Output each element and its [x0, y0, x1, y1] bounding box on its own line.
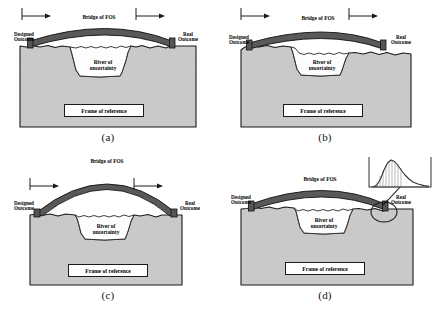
bridge-deck-c: [36, 184, 176, 216]
frame-of-reference-box-d: Frame of reference: [285, 262, 365, 275]
frame-of-reference-box-c: Frame of reference: [68, 264, 148, 277]
frame-of-reference-box-a: Frame of reference: [64, 104, 144, 117]
river-label-b: River of uncertainty: [293, 60, 351, 71]
datum-arrow-left-a: [22, 8, 51, 20]
designed-outcome-label-c: Designed Outcome: [2, 201, 46, 212]
bridge-label-a: Bridge of FOS: [58, 15, 140, 21]
real-outcome-label-d: Real Outcome: [379, 195, 423, 206]
panel-b: Bridge of FOS Designed Outcome Real Outc…: [217, 0, 433, 156]
frame-of-reference-box-b: Frame of reference: [283, 104, 363, 117]
real-outcome-label-a: Real Outcome: [166, 32, 210, 43]
panel-caption-c: (c): [0, 289, 216, 301]
datum-arrow-right-c: [134, 178, 163, 190]
designed-outcome-label-d: Designed Outcome: [219, 195, 263, 206]
real-outcome-label-c: Real Outcome: [168, 201, 212, 212]
datum-arrow-left-b: [241, 8, 270, 20]
real-outcome-label-b: Real Outcome: [379, 35, 423, 46]
bridge-deck-a: [30, 29, 172, 48]
bridge-label-c: Bridge of FOS: [66, 159, 148, 165]
panel-d: Bridge of FOS Designed Outcome Real Outc…: [217, 157, 433, 313]
bridge-label-d: Bridge of FOS: [279, 177, 361, 183]
river-label-a: River of uncertainty: [74, 60, 132, 71]
figure-bridge-of-fos: Bridge of FOS Designed Outcome Real Outc…: [0, 0, 433, 313]
panel-c: Bridge of FOS Designed Outcome Real Outc…: [0, 157, 216, 313]
panel-a: Bridge of FOS Designed Outcome Real Outc…: [0, 0, 216, 156]
panel-caption-b: (b): [217, 131, 433, 143]
bridge-label-b: Bridge of FOS: [277, 16, 359, 22]
river-label-c: River of uncertainty: [77, 224, 135, 235]
datum-arrow-right-a: [136, 8, 165, 20]
river-label-d: River of uncertainty: [295, 218, 353, 229]
inset-distribution-chart-d: [369, 157, 431, 187]
datum-arrow-left-c: [30, 178, 59, 190]
designed-outcome-label-b: Designed Outcome: [217, 35, 261, 46]
panel-caption-a: (a): [0, 131, 216, 143]
panel-caption-d: (d): [217, 289, 433, 301]
designed-outcome-label-a: Designed Outcome: [2, 32, 46, 43]
